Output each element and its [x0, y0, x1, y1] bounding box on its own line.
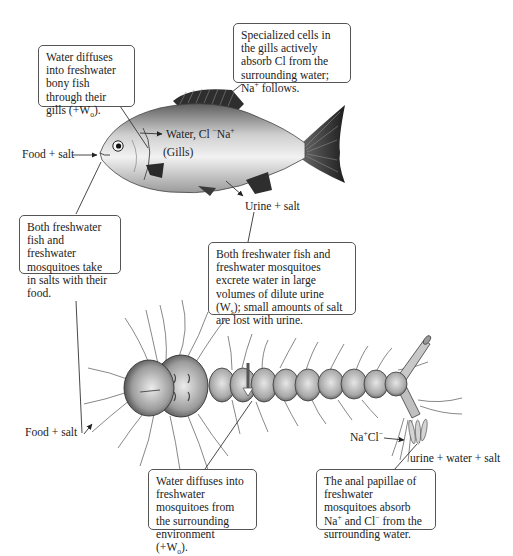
callout-mosquito-water-diffuses: Water diffuses into freshwater mosquitoe…	[148, 469, 257, 530]
callout-salts-with-food: Both freshwater fish and freshwater mosq…	[19, 215, 121, 274]
callout-text-b: and Cl	[342, 515, 376, 528]
callout-suffix: ).	[181, 541, 188, 554]
gill-ions-prefix: Water, Cl	[166, 128, 213, 141]
callout-fish-water-diffuses: Water diffuses into freshwater bony fish…	[38, 45, 135, 107]
callout-text: Water diffuses into freshwater bony fish…	[46, 51, 116, 117]
callout-anal-papillae: The anal papillae of freshwater mosquito…	[316, 469, 436, 530]
label-fish-food-salt: Food + salt	[22, 148, 74, 161]
label-mosquito-food-salt: Food + salt	[25, 426, 77, 439]
ion-na: Na	[350, 431, 364, 444]
superscript-plus: +	[230, 126, 234, 135]
callout-suffix: follows.	[259, 82, 300, 95]
label-urine-salt: Urine + salt	[245, 200, 300, 213]
callout-dilute-urine: Both freshwater fish and freshwater mosq…	[208, 242, 356, 315]
callout-specialized-cells: Specialized cells in the gills actively …	[233, 23, 351, 83]
superscript-minus: −	[379, 429, 383, 438]
label-gills: (Gills)	[163, 146, 193, 159]
fish-illustration	[100, 89, 345, 196]
callout-suffix: ).	[94, 104, 101, 117]
label-na-cl: Na+Cl−	[350, 431, 383, 444]
label-gill-ions: Water, Cl −Na+	[166, 128, 235, 141]
ion-cl: Cl	[368, 431, 379, 444]
gill-ions-na: Na	[217, 128, 231, 141]
label-urine-water-salt: urine + water + salt	[410, 452, 500, 465]
